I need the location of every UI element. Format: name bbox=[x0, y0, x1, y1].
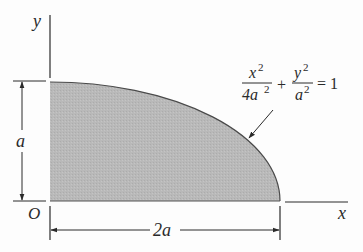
quarter-ellipse-figure: y x O a 2a x 2 4a 2 + y 2 a 2 = 1 bbox=[0, 0, 363, 252]
ellipse-equation: x 2 4a 2 + y 2 a 2 = 1 bbox=[242, 61, 338, 103]
y-axis-label: y bbox=[31, 11, 41, 31]
eq-term2-denominator: a bbox=[295, 86, 303, 103]
width-dimension-label: 2a bbox=[153, 220, 171, 240]
height-dimension-label: a bbox=[16, 131, 25, 151]
eq-term1-num-exp: 2 bbox=[258, 61, 264, 73]
eq-equals-one: = 1 bbox=[317, 75, 338, 92]
eq-term2-numerator: y bbox=[292, 64, 302, 82]
origin-label: O bbox=[28, 204, 40, 223]
eq-term2-den-exp: 2 bbox=[304, 83, 310, 95]
equation-leader-arrow bbox=[249, 110, 273, 138]
eq-term2-num-exp: 2 bbox=[303, 61, 309, 73]
eq-plus: + bbox=[277, 76, 286, 93]
eq-term1-den-exp: 2 bbox=[264, 83, 270, 95]
eq-term1-denominator: 4a bbox=[242, 86, 258, 103]
diagram-canvas: y x O a 2a x 2 4a 2 + y 2 a 2 = 1 bbox=[0, 0, 363, 252]
x-axis-label: x bbox=[337, 203, 346, 223]
eq-term1-numerator: x bbox=[248, 64, 256, 81]
